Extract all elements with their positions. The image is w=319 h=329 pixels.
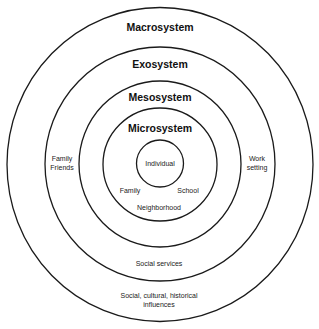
exosystem-title: Exosystem (132, 58, 187, 70)
micro-family-label: Family (120, 187, 141, 195)
microsystem-title: Microsystem (128, 122, 192, 134)
micro-neighborhood-label: Neighborhood (137, 204, 181, 212)
meso-friends-label: Friends (50, 164, 74, 171)
micro-school-label: School (177, 187, 199, 194)
ecological-systems-diagram: Macrosystem Exosystem Mesosystem Microsy… (0, 0, 319, 329)
mesosystem-title: Mesosystem (128, 91, 191, 103)
meso-setting-label: setting (247, 164, 268, 172)
macro-influences-line2: influences (143, 301, 175, 308)
macro-influences-line1: Social, cultural, historical (120, 292, 197, 299)
individual-label: Individual (145, 160, 175, 167)
exo-social-services-label: Social services (136, 260, 183, 267)
meso-family-label: Family (52, 155, 73, 163)
meso-work-label: Work (249, 155, 266, 162)
macrosystem-title: Macrosystem (126, 21, 193, 33)
